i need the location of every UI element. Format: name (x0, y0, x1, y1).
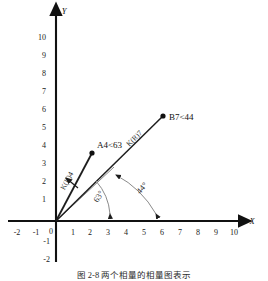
x-tick: 3 (106, 228, 110, 237)
x-tick: 5 (142, 228, 146, 237)
x-tick: 10 (230, 228, 238, 237)
y-tick: 10 (38, 33, 46, 42)
x-tick: 4 (124, 228, 128, 237)
x-tick-labels: -2 -1 0 1 2 3 4 5 6 7 8 9 10 (14, 227, 238, 237)
figure-caption: 图 2-8 两个相量的相量图表示 (0, 268, 268, 280)
x-tick: 6 (160, 228, 164, 237)
x-tick: -1 (33, 228, 40, 237)
x-tick: 8 (196, 228, 200, 237)
phasor-plot: X Y -2 -1 0 1 2 3 4 5 6 7 8 9 10 10 9 8 (0, 0, 268, 281)
phasor-figure: X Y -2 -1 0 1 2 3 4 5 6 7 8 9 10 10 9 8 (0, 0, 268, 281)
x-tick: 7 (178, 228, 182, 237)
y-tick: 8 (42, 69, 46, 78)
x-tick: 2 (88, 228, 92, 237)
vector-b-point (160, 113, 165, 118)
vector-b-label: B7<44 (169, 112, 194, 122)
y-tick: 6 (42, 105, 46, 114)
vector-a-point (89, 150, 94, 155)
y-axis: Y (56, 6, 68, 262)
angle-44-label: 44° (134, 180, 149, 196)
vector-b: B7<44 K(R)7 (56, 112, 194, 221)
vector-a-label: A4<63 (97, 140, 123, 150)
x-tick: -2 (14, 228, 21, 237)
angle-arc-44-path (116, 175, 156, 214)
y-tick: 5 (42, 123, 46, 132)
angle-arc-44: 44° (116, 175, 156, 214)
y-tick-neg: -2 (43, 255, 50, 264)
y-axis-label: Y (62, 6, 68, 16)
y-tick: 3 (42, 159, 46, 168)
y-tick-neg: -1 (43, 237, 50, 246)
y-tick: 9 (42, 51, 46, 60)
vector-a: A4<63 K(R)4 (56, 140, 123, 221)
y-tick: 4 (42, 141, 46, 150)
vector-b-line (56, 116, 163, 221)
x-tick: 1 (71, 228, 75, 237)
origin-tick: 0 (49, 227, 53, 236)
x-axis-label: X (248, 216, 255, 226)
y-tick: 2 (42, 177, 46, 186)
x-axis: X (8, 216, 255, 226)
x-tick: 9 (214, 228, 218, 237)
y-tick: 7 (42, 87, 46, 96)
y-tick: 1 (42, 195, 46, 204)
